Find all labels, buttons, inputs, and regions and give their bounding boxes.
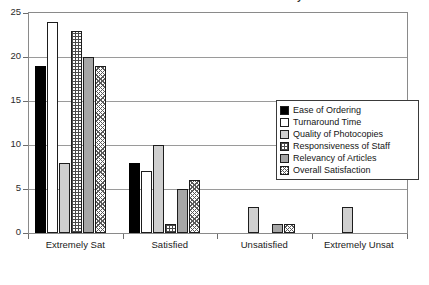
bar — [35, 66, 46, 233]
bar — [141, 171, 152, 233]
legend-item[interactable]: Quality of Photocopies — [280, 128, 414, 140]
bar — [95, 66, 106, 233]
bar — [153, 145, 164, 233]
x-axis-tick — [123, 234, 124, 239]
x-axis-label: Extremely Sat — [46, 239, 105, 250]
bar — [47, 22, 58, 233]
legend-swatch-icon — [280, 130, 289, 139]
y-axis-tick: 10 — [0, 145, 28, 146]
y-tick-label: 5 — [16, 182, 21, 194]
y-tick-label: 10 — [10, 138, 21, 150]
bar — [165, 224, 176, 233]
legend-swatch-icon — [280, 118, 289, 127]
legend-swatch-icon — [280, 142, 289, 151]
legend-swatch-icon — [280, 106, 289, 115]
x-axis-tick — [407, 234, 408, 239]
bar — [129, 163, 140, 233]
bar — [189, 180, 200, 233]
x-axis-tick — [312, 234, 313, 239]
legend-label: Relevancy of Articles — [293, 152, 377, 164]
y-axis-tick: 15 — [0, 101, 28, 102]
x-axis: Extremely SatSatisfiedUnsatisfiedExtreme… — [28, 234, 408, 262]
legend-label: Turnaround Time — [293, 116, 361, 128]
y-tick-label: 20 — [10, 50, 21, 62]
y-axis-tick: 5 — [0, 189, 28, 190]
y-tick-label: 25 — [10, 6, 21, 18]
bar — [248, 207, 259, 233]
x-axis-label: Satisfied — [152, 239, 188, 250]
bar — [272, 224, 283, 233]
legend-item[interactable]: Turnaround Time — [280, 116, 414, 128]
legend-swatch-icon — [280, 154, 289, 163]
legend-item[interactable]: Relevancy of Articles — [280, 152, 414, 164]
legend-label: Overall Satisfaction — [293, 164, 371, 176]
legend-item[interactable]: Responsiveness of Staff — [280, 140, 414, 152]
y-tick-label: 15 — [10, 94, 21, 106]
legend-item[interactable]: Overall Satisfaction — [280, 164, 414, 176]
x-axis-label: Unsatisfied — [241, 239, 288, 250]
x-axis-label: Extremely Unsat — [324, 239, 394, 250]
legend-swatch-icon — [280, 166, 289, 175]
bar — [59, 163, 70, 233]
x-axis-tick — [28, 234, 29, 239]
legend-label: Ease of Ordering — [293, 104, 361, 116]
legend-label: Responsiveness of Staff — [293, 140, 390, 152]
y-tick-label: 0 — [16, 226, 21, 238]
bar — [342, 207, 353, 233]
y-axis-tick: 25 — [0, 13, 28, 14]
legend-item[interactable]: Ease of Ordering — [280, 104, 414, 116]
bar — [83, 57, 94, 233]
y-axis-tick: 20 — [0, 57, 28, 58]
chart-legend: Ease of OrderingTurnaround TimeQuality o… — [276, 100, 419, 180]
bar-chart: Satisfaction with Document Delivery 0510… — [0, 0, 429, 285]
y-axis-tick: 0 — [0, 233, 28, 234]
legend-label: Quality of Photocopies — [293, 128, 383, 140]
x-axis-tick — [217, 234, 218, 239]
bar — [177, 189, 188, 233]
bar — [284, 224, 295, 233]
bar — [71, 31, 82, 233]
y-axis: 0510152025 — [0, 12, 28, 234]
bar-group — [29, 13, 124, 233]
bar-group — [124, 13, 219, 233]
chart-title: Satisfaction with Document Delivery — [0, 0, 429, 2]
